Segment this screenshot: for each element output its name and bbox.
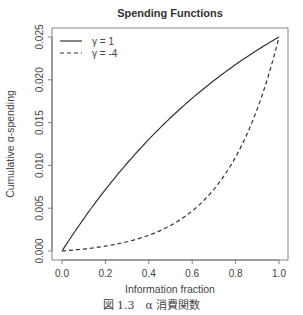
- legend: γ = 1 γ = -4: [60, 36, 118, 59]
- legend-label-gamma-1: γ = 1: [92, 36, 114, 47]
- y-tick-label: 0.020: [34, 67, 45, 92]
- y-axis: 0.0000.0050.0100.0150.0200.025: [34, 24, 52, 263]
- x-tick-label: 0.0: [55, 268, 69, 279]
- series-line-gamma-1: [62, 37, 279, 251]
- legend-label-gamma-minus-4: γ = -4: [92, 48, 118, 59]
- y-axis-label: Cumulative α-spending: [4, 90, 16, 198]
- figure-caption: 図 1.3 α 消費関数: [0, 296, 303, 312]
- x-tick-label: 0.4: [142, 268, 156, 279]
- chart-title: Spending Functions: [117, 7, 223, 19]
- x-tick-label: 0.8: [229, 268, 243, 279]
- x-tick-label: 0.6: [185, 268, 199, 279]
- y-tick-label: 0.000: [34, 238, 45, 263]
- series-group: [62, 37, 279, 251]
- x-tick-label: 0.2: [98, 268, 112, 279]
- x-tick-label: 1.0: [272, 268, 286, 279]
- y-tick-label: 0.015: [34, 110, 45, 135]
- y-tick-label: 0.005: [34, 195, 45, 220]
- y-tick-label: 0.025: [34, 24, 45, 49]
- x-axis-label: Information fraction: [125, 283, 215, 295]
- series-line-gamma-minus-4: [62, 37, 279, 251]
- y-tick-label: 0.010: [34, 152, 45, 177]
- chart: Spending Functions 0.00.20.40.60.81.0 0.…: [0, 0, 303, 315]
- plot-frame: [52, 28, 288, 260]
- x-axis: 0.00.20.40.60.81.0: [55, 260, 286, 279]
